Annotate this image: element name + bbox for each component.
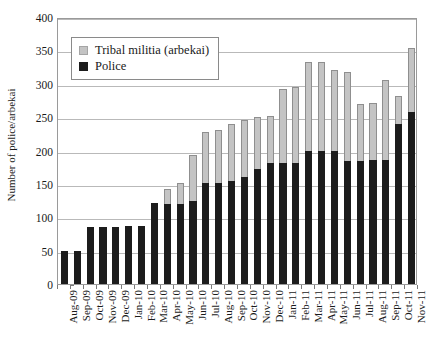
bar-segment-tribal-militia[interactable] [331,70,338,150]
y-axis-tick-label: 300 [19,79,53,91]
bar-group[interactable] [164,189,171,284]
bar-segment-tribal-militia[interactable] [164,189,171,204]
bar-segment-tribal-militia[interactable] [318,62,325,151]
bar-segment-tribal-militia[interactable] [189,155,196,200]
bar-segment-police[interactable] [125,226,132,284]
bar-segment-tribal-militia[interactable] [215,130,222,182]
bar-group[interactable] [87,227,94,284]
bar-group[interactable] [305,62,312,284]
bar-segment-tribal-militia[interactable] [202,132,209,183]
bar-segment-police[interactable] [177,204,184,284]
bar-segment-police[interactable] [74,251,81,284]
bar-group[interactable] [112,227,119,284]
x-axis-tick-mark [366,285,367,289]
bar-group[interactable] [177,183,184,284]
x-axis-tick-mark [417,285,418,289]
x-axis-tick-mark [160,285,161,289]
bar-group[interactable] [395,96,402,284]
x-axis-tick-mark [314,285,315,289]
bar-group[interactable] [318,62,325,284]
bar-segment-tribal-militia[interactable] [254,117,261,169]
bar-segment-tribal-militia[interactable] [408,48,415,111]
bar-segment-tribal-militia[interactable] [279,89,286,162]
x-axis-tick-label: Jun-10 [196,290,208,320]
bar-segment-tribal-militia[interactable] [292,87,299,162]
bar-segment-police[interactable] [99,227,106,284]
bar-segment-police[interactable] [189,201,196,284]
bar-segment-tribal-militia[interactable] [305,62,312,151]
bar-segment-police[interactable] [395,124,402,284]
x-axis-tick-label: Jun-11 [350,290,362,320]
y-axis-title-text: Number of police/arbekai [4,88,16,201]
x-axis-tick-mark [224,285,225,289]
bar-segment-tribal-militia[interactable] [228,124,235,181]
y-axis-tick-label: 250 [19,112,53,124]
bar-group[interactable] [331,70,338,284]
bar-group[interactable] [151,203,158,284]
bar-group[interactable] [138,226,145,284]
bar-group[interactable] [344,72,351,284]
bar-segment-tribal-militia[interactable] [267,116,274,163]
x-axis-tick-label: Dec-09 [119,290,131,322]
bar-segment-police[interactable] [151,203,158,284]
bar-segment-police[interactable] [318,151,325,285]
bar-segment-tribal-militia[interactable] [241,120,248,177]
legend-item[interactable]: Police [79,58,209,74]
y-axis-tick-label: 350 [19,45,53,57]
x-axis-tick-label: Aug-09 [67,290,79,324]
bar-segment-police[interactable] [408,112,415,284]
bar-segment-police[interactable] [369,160,376,284]
bar-segment-police[interactable] [279,163,286,284]
bar-segment-tribal-militia[interactable] [382,80,389,159]
x-axis-tick-label: Jul-11 [363,290,375,317]
bar-group[interactable] [189,155,196,284]
bar-segment-police[interactable] [267,163,274,284]
x-axis-tick-label: Sep-10 [235,290,247,321]
x-axis-tick-label: Sep-09 [80,290,92,321]
bar-group[interactable] [99,227,106,284]
y-axis-tick-labels: 050100150200250300350400 [17,18,53,285]
bar-group[interactable] [254,117,261,284]
bar-group[interactable] [74,251,81,284]
bar-group[interactable] [61,251,68,284]
x-axis-tick-label: Apr-10 [170,290,182,322]
bar-group[interactable] [228,124,235,284]
bar-segment-tribal-militia[interactable] [369,103,376,160]
bar-segment-police[interactable] [87,227,94,284]
x-axis-tick-label: Jan-10 [132,290,144,319]
bar-group[interactable] [125,226,132,284]
bar-segment-police[interactable] [305,151,312,285]
bar-group[interactable] [369,103,376,284]
bar-group[interactable] [267,116,274,284]
bar-group[interactable] [202,132,209,284]
bar-segment-tribal-militia[interactable] [177,183,184,204]
bar-segment-police[interactable] [164,204,171,284]
bar-segment-police[interactable] [228,181,235,284]
x-axis-tick-mark [57,285,58,289]
bar-segment-police[interactable] [292,163,299,284]
bar-segment-police[interactable] [138,226,145,284]
bar-segment-police[interactable] [254,169,261,284]
legend-item[interactable]: Tribal militia (arbekai) [79,42,209,58]
bar-group[interactable] [382,80,389,284]
bar-segment-police[interactable] [61,251,68,284]
bar-segment-tribal-militia[interactable] [395,96,402,124]
bar-group[interactable] [241,120,248,284]
bar-group[interactable] [357,104,364,284]
bar-segment-police[interactable] [357,161,364,284]
bar-segment-police[interactable] [241,177,248,284]
bar-segment-police[interactable] [382,160,389,284]
bar-segment-tribal-militia[interactable] [344,72,351,160]
bar-group[interactable] [408,48,415,284]
y-axis-tick-label: 100 [19,212,53,224]
bar-segment-police[interactable] [331,151,338,285]
bar-segment-police[interactable] [344,161,351,284]
bar-group[interactable] [292,87,299,284]
y-axis-tick-label: 200 [19,146,53,158]
bar-segment-tribal-militia[interactable] [357,104,364,161]
bar-segment-police[interactable] [112,227,119,284]
bar-group[interactable] [279,89,286,284]
bar-segment-police[interactable] [215,183,222,284]
bar-group[interactable] [215,130,222,284]
bar-segment-police[interactable] [202,183,209,284]
